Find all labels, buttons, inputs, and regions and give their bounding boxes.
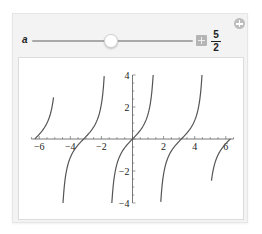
tan-branch: [161, 75, 202, 202]
y-tick-label: 2: [125, 102, 130, 113]
x-tick-label: 4: [192, 141, 197, 152]
tan-branch: [63, 76, 104, 203]
y-tick-label: −2: [119, 166, 130, 177]
x-tick-label: 2: [161, 141, 166, 152]
x-tick-label: −2: [96, 141, 107, 152]
y-tick-label: −4: [119, 198, 130, 209]
y-tick-label: 4: [125, 70, 130, 81]
tan-branch: [35, 97, 54, 139]
x-tick-label: −6: [34, 141, 45, 152]
tan-plot: −6−4−2246−4−224: [0, 0, 262, 234]
